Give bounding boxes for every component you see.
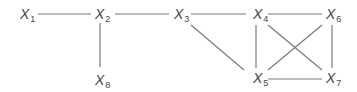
node-label-base: X [94,72,105,88]
node-x1: X1 [19,6,35,24]
node-label-subscript: 7 [336,78,341,88]
node-label-base: X [252,70,263,86]
node-label-subscript: 6 [336,14,341,24]
node-label-base: X [19,6,30,22]
edge-x3-x5 [191,25,244,70]
node-label-base: X [173,6,184,22]
node-label-base: X [94,6,105,22]
node-label-subscript: 1 [30,14,35,24]
node-label-base: X [252,6,263,22]
graph-diagram: X1X2X3X4X5X6X7X8 [0,0,357,92]
graph-nodes: X1X2X3X4X5X6X7X8 [19,6,341,90]
node-x7: X7 [325,70,341,88]
node-label-subscript: 5 [263,78,268,88]
node-x4: X4 [252,6,268,24]
node-label-subscript: 4 [263,14,268,24]
node-label-subscript: 2 [105,14,110,24]
node-x6: X6 [325,6,341,24]
node-label-subscript: 8 [105,80,110,90]
node-label-base: X [325,6,336,22]
node-label-base: X [325,70,336,86]
node-x5: X5 [252,70,268,88]
node-x2: X2 [94,6,110,24]
node-label-subscript: 3 [184,14,189,24]
node-x3: X3 [173,6,189,24]
node-x8: X8 [94,72,110,90]
